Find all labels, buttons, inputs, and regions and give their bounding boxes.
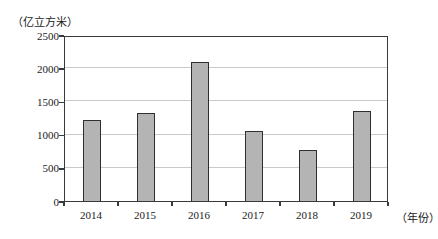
x-tick-label-2019: 2019 bbox=[334, 210, 388, 221]
gridline-2000 bbox=[65, 67, 387, 68]
y-axis-unit-label: （亿立方米） bbox=[12, 13, 78, 29]
gridline-1000 bbox=[65, 134, 387, 135]
y-tick-label-500: 500 bbox=[21, 163, 59, 174]
y-tick-mark bbox=[59, 102, 64, 104]
y-tick-label-0: 0 bbox=[21, 197, 59, 208]
bar-2016 bbox=[191, 62, 209, 201]
x-tick-mark bbox=[63, 202, 65, 206]
x-tick-mark bbox=[333, 202, 335, 206]
bar-2018 bbox=[299, 150, 317, 201]
x-tick-mark bbox=[279, 202, 281, 206]
x-tick-mark bbox=[171, 202, 173, 206]
bar-2017 bbox=[245, 131, 263, 201]
bar-2019 bbox=[353, 111, 371, 201]
y-tick-mark bbox=[59, 35, 64, 37]
x-tick-mark bbox=[225, 202, 227, 206]
x-tick-label-2014: 2014 bbox=[64, 210, 118, 221]
y-tick-label-2000: 2000 bbox=[21, 64, 59, 75]
plot-area bbox=[64, 36, 388, 202]
bar-2014 bbox=[83, 120, 101, 201]
x-axis-unit-label: （年份） bbox=[396, 209, 438, 225]
y-tick-mark bbox=[59, 168, 64, 170]
bar-2015 bbox=[137, 113, 155, 201]
x-tick-label-2015: 2015 bbox=[118, 210, 172, 221]
gridline-500 bbox=[65, 167, 387, 168]
gridline-1500 bbox=[65, 100, 387, 101]
x-tick-mark bbox=[117, 202, 119, 206]
y-tick-label-2500: 2500 bbox=[21, 31, 59, 42]
y-tick-label-1500: 1500 bbox=[21, 97, 59, 108]
bar-chart: （亿立方米） 05001000150020002500 201420152016… bbox=[0, 0, 438, 239]
x-tick-mark bbox=[387, 202, 389, 206]
y-tick-label-1000: 1000 bbox=[21, 130, 59, 141]
y-tick-mark bbox=[59, 135, 64, 137]
y-tick-mark bbox=[59, 68, 64, 70]
x-tick-label-2018: 2018 bbox=[280, 210, 334, 221]
x-tick-label-2017: 2017 bbox=[226, 210, 280, 221]
x-tick-label-2016: 2016 bbox=[172, 210, 226, 221]
